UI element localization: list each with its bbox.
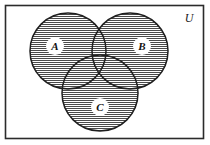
venn-diagram-canvas: A B C U <box>0 0 210 145</box>
venn-diagram-figure: A B C U <box>0 0 210 145</box>
universe-label: U <box>185 11 195 25</box>
set-label-c: C <box>96 101 104 113</box>
set-label-a: A <box>50 40 58 52</box>
set-label-b: B <box>137 40 145 52</box>
